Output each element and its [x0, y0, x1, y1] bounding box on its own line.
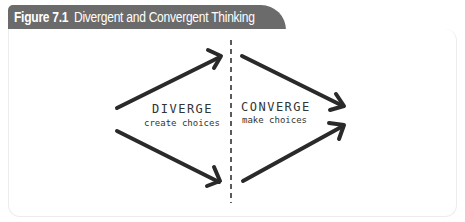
diverge-subtitle: create choices	[144, 118, 220, 128]
diverge-up-arrow-icon	[117, 50, 221, 108]
diverge-converge-diagram: DIVERGE create choices CONVERGE make cho…	[0, 0, 465, 222]
converge-subtitle: make choices	[242, 115, 307, 125]
diverge-title: DIVERGE	[152, 102, 213, 116]
diverge-down-arrow-icon	[117, 131, 220, 186]
converge-up-arrow-icon	[243, 123, 344, 181]
converge-title: CONVERGE	[241, 100, 311, 114]
